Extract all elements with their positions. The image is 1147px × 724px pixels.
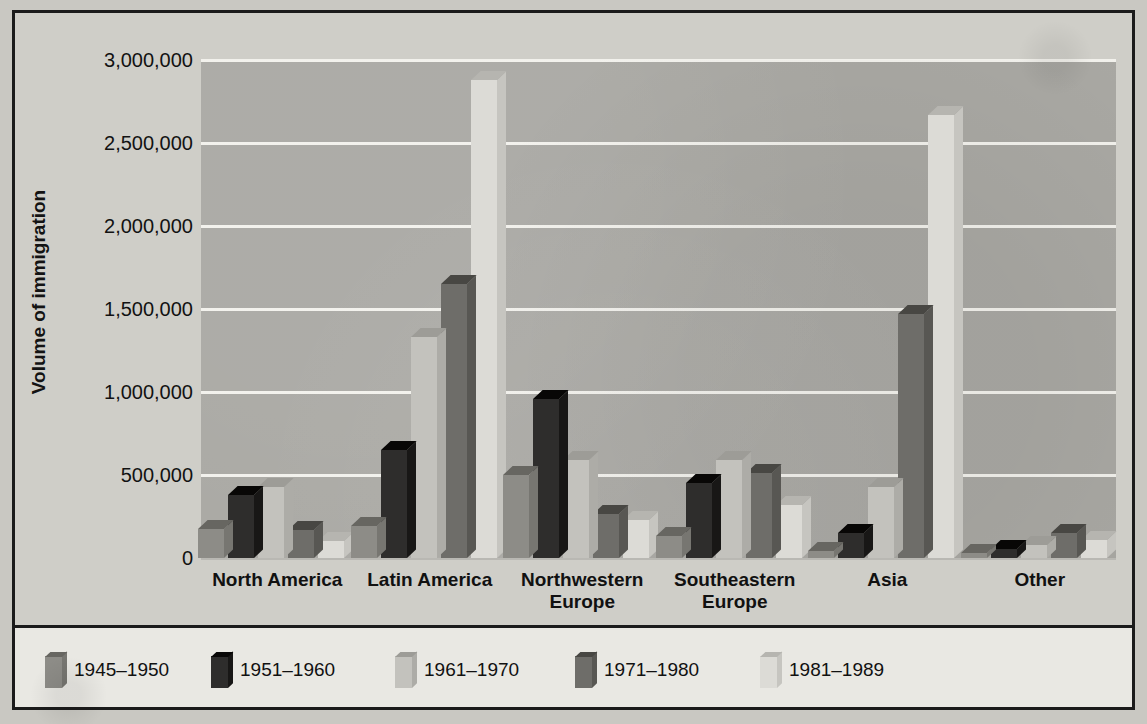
bar-side-face [559, 390, 568, 558]
x-axis-category-label: North America [201, 569, 354, 591]
bar [198, 529, 224, 558]
legend-label: 1951–1960 [240, 659, 335, 681]
y-axis-title: Volume of immigration [28, 72, 50, 512]
gridline [201, 142, 1116, 145]
gridline [201, 59, 1116, 62]
legend-swatch-side [592, 651, 597, 688]
bar-side-face [894, 478, 903, 558]
legend-swatch-front [45, 656, 62, 688]
gridline [201, 225, 1116, 228]
plot-area [201, 60, 1116, 558]
legend-label: 1961–1970 [424, 659, 519, 681]
legend-item[interactable]: 1971–1980 [575, 650, 699, 690]
legend-swatch-side [228, 651, 233, 688]
y-axis-tick-label: 2,000,000 [61, 215, 193, 238]
y-axis-tick-label: 500,000 [61, 464, 193, 487]
x-axis-category-label: Latin America [354, 569, 507, 591]
legend-swatch-icon [760, 652, 777, 688]
legend-swatch-side [777, 651, 782, 688]
legend-swatch-icon [395, 652, 412, 688]
legend-swatch-icon [45, 652, 62, 688]
legend-item[interactable]: 1981–1989 [760, 650, 884, 690]
y-axis-tick-label: 1,000,000 [61, 381, 193, 404]
bar-side-face [619, 506, 628, 558]
legend-swatch-side [412, 651, 417, 688]
bar-front-face [656, 536, 682, 558]
bar-front-face [503, 475, 529, 558]
bar-front-face [961, 553, 987, 558]
legend-swatch-front [575, 656, 592, 688]
legend-label: 1971–1980 [604, 659, 699, 681]
bar-side-face [742, 452, 751, 558]
legend-label: 1945–1950 [74, 659, 169, 681]
gridline [201, 308, 1116, 311]
chart-legend: 1945–19501951–19601961–19701971–19801981… [15, 625, 1132, 707]
bar-side-face [284, 478, 293, 558]
legend-item[interactable]: 1951–1960 [211, 650, 335, 690]
bar [808, 551, 834, 558]
bar [656, 536, 682, 558]
bar-side-face [954, 106, 963, 558]
y-axis-tick-label: 2,500,000 [61, 132, 193, 155]
x-axis-category-label: SoutheasternEurope [659, 569, 812, 614]
bar-side-face [589, 452, 598, 558]
legend-swatch-front [395, 656, 412, 688]
legend-swatch-side [62, 651, 67, 688]
x-axis-category-labels: North AmericaLatin AmericaNorthwesternEu… [201, 569, 1116, 625]
bar-side-face [924, 306, 933, 558]
y-axis-tick-label: 3,000,000 [61, 49, 193, 72]
gridline [201, 391, 1116, 394]
legend-item[interactable]: 1961–1970 [395, 650, 519, 690]
legend-label: 1981–1989 [789, 659, 884, 681]
bar-side-face [467, 276, 476, 558]
y-axis-tick-label: 1,500,000 [61, 298, 193, 321]
legend-swatch-front [760, 656, 777, 688]
bar [351, 526, 377, 558]
bar-front-face [808, 551, 834, 558]
gridline [201, 474, 1116, 477]
bar-side-face [254, 487, 263, 558]
legend-swatch-icon [211, 652, 228, 688]
x-axis-category-label: Asia [811, 569, 964, 591]
bar-side-face [712, 475, 721, 558]
bar-front-face [198, 529, 224, 558]
bar [961, 553, 987, 558]
legend-swatch-icon [575, 652, 592, 688]
bar-side-face [407, 442, 416, 558]
chart-area: Volume of immigration 0500,0001,000,0001… [15, 13, 1132, 625]
legend-item[interactable]: 1945–1950 [45, 650, 169, 690]
bar-side-face [529, 467, 538, 558]
x-axis-category-label: NorthwesternEurope [506, 569, 659, 614]
bar-front-face [351, 526, 377, 558]
legend-swatch-front [211, 656, 228, 688]
y-axis-tick-label: 0 [61, 547, 193, 570]
bar [503, 475, 529, 558]
bar-side-face [437, 329, 446, 558]
bar-side-face [772, 465, 781, 558]
x-axis-category-label: Other [964, 569, 1117, 591]
figure-frame: Volume of immigration 0500,0001,000,0001… [12, 10, 1135, 710]
y-axis-tick-labels: 0500,0001,000,0001,500,0002,000,0002,500… [61, 13, 193, 573]
